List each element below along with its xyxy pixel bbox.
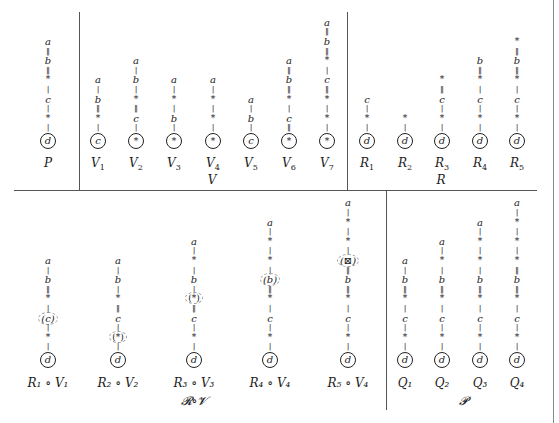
chain-node: b bbox=[514, 275, 520, 285]
chain-node: * bbox=[440, 114, 445, 124]
highlighted-node: (c) bbox=[38, 314, 57, 324]
chain-node: * bbox=[440, 294, 445, 304]
dotted-circle-marker: (*) bbox=[109, 331, 127, 343]
chain-node: b bbox=[345, 275, 351, 285]
group-label: 𝓟 bbox=[423, 394, 503, 408]
chain-node: * bbox=[96, 114, 101, 124]
chain-node: * bbox=[287, 95, 292, 105]
chain-node: a bbox=[248, 95, 254, 105]
chain-node: b bbox=[248, 114, 254, 124]
chain-node: b bbox=[115, 275, 121, 285]
chain-node: * bbox=[325, 95, 330, 105]
lattice-chain: *‖b‖*|c|*|d bbox=[505, 37, 529, 149]
chain-node: * bbox=[440, 333, 445, 343]
chain-node: * bbox=[268, 256, 273, 266]
chain-node: c bbox=[345, 314, 351, 324]
chain-node: * bbox=[211, 95, 216, 105]
single-edge: | bbox=[516, 123, 519, 133]
chain-node: a bbox=[402, 256, 408, 266]
chain-node: * bbox=[440, 75, 445, 85]
root-node-circle: d bbox=[340, 352, 356, 368]
chain-node: * bbox=[478, 75, 483, 85]
single-edge: | bbox=[516, 342, 519, 352]
lattice-chain: a|b|*‖c|* bbox=[124, 56, 148, 149]
root-node-circle: d bbox=[40, 352, 56, 368]
group-label: R bbox=[401, 173, 481, 187]
single-edge: | bbox=[193, 342, 196, 352]
chain-node: c bbox=[286, 114, 292, 124]
diagram-label: R₅ ∘ V₄ bbox=[318, 376, 378, 390]
label-subscript: 6 bbox=[291, 163, 296, 172]
lattice-chain: *‖c|*|d bbox=[430, 75, 454, 149]
chain-node: a bbox=[171, 75, 177, 85]
chain-node: * bbox=[346, 294, 351, 304]
chain-node: b bbox=[191, 275, 197, 285]
single-edge: | bbox=[441, 342, 444, 352]
label-subscript: 2 bbox=[138, 163, 143, 172]
label-subscript: 7 bbox=[329, 163, 334, 172]
chain-node: * bbox=[478, 237, 483, 247]
chain-node: * bbox=[515, 218, 520, 228]
label-subscript: 3 bbox=[444, 163, 449, 172]
chain-node: * bbox=[268, 237, 273, 247]
single-edge: | bbox=[269, 342, 272, 352]
chain-node: * bbox=[478, 333, 483, 343]
single-edge: | bbox=[404, 342, 407, 352]
single-edge: | bbox=[47, 342, 50, 352]
chain-node: * bbox=[478, 114, 483, 124]
root-node-circle: c bbox=[90, 133, 106, 149]
highlighted-node: (b) bbox=[260, 275, 280, 285]
label-name: V bbox=[244, 156, 253, 170]
chain-node: * bbox=[478, 256, 483, 266]
label-name: V bbox=[206, 156, 215, 170]
lattice-chain: a‖b‖*|c|*|d bbox=[36, 37, 60, 149]
root-node-circle: c bbox=[243, 133, 259, 149]
chain-node: a bbox=[345, 198, 351, 208]
diagram-label: Q₄ bbox=[487, 376, 547, 390]
chain-node: * bbox=[268, 294, 273, 304]
lattice-chain: a|b‖*|(c)|*|d bbox=[36, 256, 60, 368]
chain-node: * bbox=[325, 56, 330, 66]
chain-node: * bbox=[46, 114, 51, 124]
single-edge: | bbox=[366, 123, 369, 133]
diagram-label: R₃ ∘ V₃ bbox=[164, 376, 224, 390]
chain-node: c bbox=[439, 95, 445, 105]
chain-node: * bbox=[46, 294, 51, 304]
chain-node: a bbox=[324, 18, 330, 28]
chain-node: b bbox=[286, 75, 292, 85]
single-edge: | bbox=[326, 123, 329, 133]
label-subscript: 1 bbox=[100, 163, 105, 172]
chain-node: * bbox=[403, 294, 408, 304]
label-name: R bbox=[398, 156, 407, 170]
single-edge: | bbox=[441, 123, 444, 133]
chain-node: * bbox=[325, 114, 330, 124]
label-name: P bbox=[44, 156, 52, 170]
single-edge: | bbox=[212, 123, 215, 133]
lattice-chain: a|*|*|*‖b‖*|c|*|d bbox=[505, 198, 529, 368]
chain-node: a bbox=[514, 198, 520, 208]
chain-node: c bbox=[115, 314, 121, 324]
chain-node: c bbox=[439, 314, 445, 324]
lattice-chain: a|b‖*|c|*|d bbox=[393, 256, 417, 368]
chain-node: * bbox=[515, 114, 520, 124]
chain-node: * bbox=[515, 256, 520, 266]
single-edge: | bbox=[173, 123, 176, 133]
chain-node: b bbox=[45, 275, 51, 285]
chain-node: * bbox=[172, 95, 177, 105]
chain-node: c bbox=[133, 114, 139, 124]
lattice-chain: a|b|c bbox=[239, 95, 263, 149]
root-node-circle: d bbox=[40, 133, 56, 149]
chain-node: * bbox=[192, 256, 197, 266]
diagram-label: R5 bbox=[487, 156, 547, 172]
label-subscript: 4 bbox=[215, 163, 220, 172]
chain-node: * bbox=[134, 95, 139, 105]
clipped-page-header bbox=[200, 0, 530, 2]
divider-horizontal bbox=[14, 190, 537, 191]
single-edge: | bbox=[135, 123, 138, 133]
lattice-chain: a|*|*|(b)‖*|c|*|d bbox=[258, 218, 282, 368]
group-label: V bbox=[172, 173, 252, 187]
chain-node: * bbox=[46, 75, 51, 85]
label-subscript: 1 bbox=[369, 163, 374, 172]
highlighted-node: (*) bbox=[185, 294, 203, 304]
root-node-circle: d bbox=[509, 133, 525, 149]
